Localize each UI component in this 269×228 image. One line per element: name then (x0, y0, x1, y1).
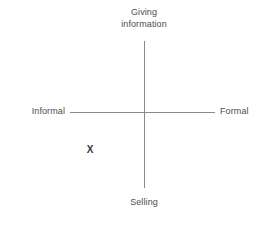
axis-label-informal: Informal (0, 106, 65, 118)
axis-label-giving-information: Giving information (94, 7, 194, 30)
quadrant-diagram: Giving information Selling Informal Form… (0, 0, 269, 228)
horizontal-axis-line (70, 112, 215, 113)
vertical-axis-line (144, 41, 145, 188)
axis-label-selling: Selling (94, 197, 194, 209)
axis-label-formal: Formal (220, 106, 269, 118)
position-marker-x: X (80, 143, 100, 157)
